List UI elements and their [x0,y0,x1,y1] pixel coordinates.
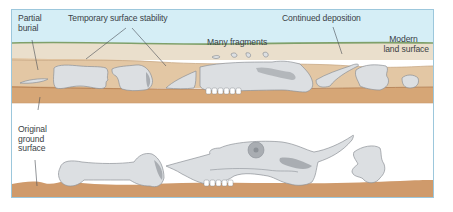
tooth [210,180,215,186]
tooth [228,180,233,186]
top-panel [12,10,433,103]
label-temporary-surface-stability: Temporary surface stability [68,14,168,24]
tooth [222,180,227,186]
tooth [212,88,217,94]
tooth [230,88,235,94]
tooth [224,88,229,94]
small-bone-fragment [402,75,419,88]
tooth [216,180,221,186]
fragment-1 [212,56,220,59]
label-continued-deposition: Continued deposition [282,14,361,24]
vertebra-broken [355,65,388,90]
tooth [218,88,223,94]
skull-partial [200,61,313,92]
eye-socket-inner [254,148,259,153]
label-modern-land-surface: Modern land surface [370,35,429,54]
tooth [236,88,241,94]
label-many-fragments: Many fragments [207,38,267,48]
bottom-panel [12,103,433,197]
fossil-burial-diagram: Partial burial Temporary surface stabili… [0,0,453,212]
limb-bone-buried [54,65,109,88]
label-line: burial [18,24,42,34]
diagram-canvas [0,0,453,212]
tooth [204,180,209,186]
fragment-3 [246,53,251,58]
tooth [206,88,211,94]
label-line: surface [18,144,47,154]
label-partial-burial: Partial burial [18,14,42,33]
label-line: land surface [370,45,429,55]
fragment-4 [263,52,268,57]
label-original-ground-surface: Original ground surface [18,125,47,154]
